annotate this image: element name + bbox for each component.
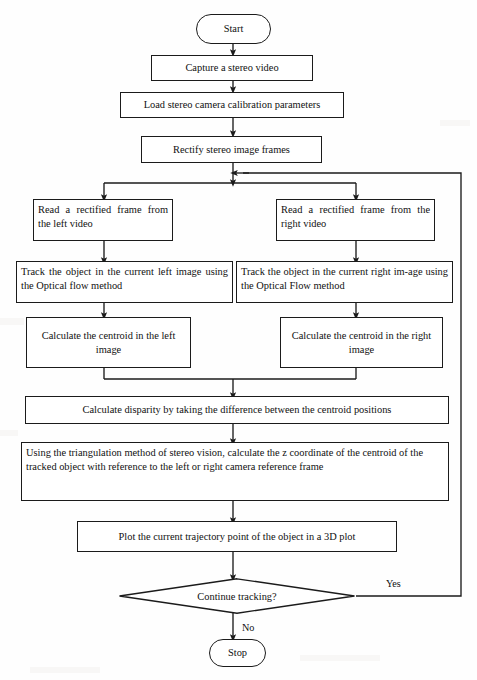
node-load-calibration-label: Load stereo camera calibration parameter… bbox=[144, 98, 321, 112]
edge-label-no: No bbox=[242, 622, 254, 633]
flowchart-canvas: Start Capture a stereo video Load stereo… bbox=[0, 0, 477, 680]
node-stop[interactable]: Stop bbox=[209, 639, 266, 667]
edge-label-yes: Yes bbox=[386, 578, 401, 589]
node-capture-stereo-video[interactable]: Capture a stereo video bbox=[151, 55, 313, 81]
node-continue-tracking-decision[interactable]: Continue tracking? bbox=[118, 578, 356, 614]
node-triangulation-z-coordinate[interactable]: Using the triangulation method of stereo… bbox=[21, 442, 449, 501]
node-centroid-right-label: Calculate the centroid in the right imag… bbox=[285, 329, 438, 356]
node-start[interactable]: Start bbox=[196, 14, 271, 44]
node-read-right-frame[interactable]: Read a rectified frame from the right vi… bbox=[276, 199, 435, 241]
node-read-right-frame-label: Read a rectified frame from the right vi… bbox=[281, 203, 430, 230]
node-track-left-optical-flow[interactable]: Track the object in the current left ima… bbox=[16, 261, 233, 303]
node-start-label: Start bbox=[224, 22, 244, 36]
node-stop-label: Stop bbox=[228, 646, 247, 660]
node-rectify-frames-label: Rectify stereo image frames bbox=[173, 143, 290, 157]
paper-smudge bbox=[0, 318, 24, 325]
node-capture-stereo-video-label: Capture a stereo video bbox=[185, 61, 278, 75]
node-triangulation-z-coordinate-label: Using the triangulation method of stereo… bbox=[26, 447, 423, 472]
node-centroid-left[interactable]: Calculate the centroid in the left image bbox=[26, 317, 191, 368]
node-track-right-optical-flow-label: Track the object in the current right im… bbox=[241, 265, 448, 292]
node-plot-trajectory-3d[interactable]: Plot the current trajectory point of the… bbox=[77, 521, 397, 552]
node-plot-trajectory-3d-label: Plot the current trajectory point of the… bbox=[119, 530, 356, 544]
node-continue-tracking-decision-label: Continue tracking? bbox=[197, 591, 276, 602]
node-calculate-disparity[interactable]: Calculate disparity by taking the differ… bbox=[25, 396, 449, 424]
node-calculate-disparity-label: Calculate disparity by taking the differ… bbox=[83, 403, 392, 417]
paper-smudge bbox=[300, 655, 380, 661]
paper-smudge bbox=[440, 120, 470, 126]
paper-smudge bbox=[30, 667, 100, 673]
paper-smudge bbox=[0, 430, 18, 436]
node-centroid-right[interactable]: Calculate the centroid in the right imag… bbox=[280, 317, 443, 368]
node-track-left-optical-flow-label: Track the object in the current left ima… bbox=[21, 265, 228, 292]
node-read-left-frame-label: Read a rectified frame from the left vid… bbox=[38, 203, 168, 230]
node-track-right-optical-flow[interactable]: Track the object in the current right im… bbox=[236, 261, 453, 303]
node-centroid-left-label: Calculate the centroid in the left image bbox=[31, 329, 186, 356]
node-load-calibration[interactable]: Load stereo camera calibration parameter… bbox=[120, 92, 344, 118]
node-rectify-frames[interactable]: Rectify stereo image frames bbox=[141, 136, 322, 163]
node-read-left-frame[interactable]: Read a rectified frame from the left vid… bbox=[33, 199, 173, 241]
